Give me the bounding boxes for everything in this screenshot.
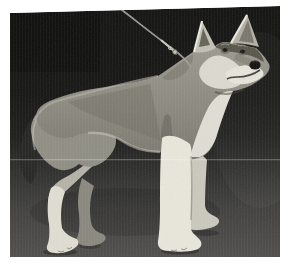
photo-frame — [0, 0, 286, 275]
film-grain — [10, 6, 280, 257]
dog-photograph — [10, 0, 280, 257]
dog-photo-canvas — [10, 0, 280, 257]
scan-artifacts — [10, 6, 280, 257]
